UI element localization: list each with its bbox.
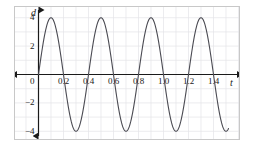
y-tick-label-minus-4: −4 xyxy=(25,127,35,136)
y-tick-label-2: 2 xyxy=(30,42,35,51)
sine-wave-plot xyxy=(0,0,254,148)
x-tick-label-0.2: 0.2 xyxy=(58,77,69,86)
y-tick-label-4: 4 xyxy=(30,13,35,22)
x-tick-label-1.0: 1.0 xyxy=(158,77,169,86)
x-tick-label-1.4: 1.4 xyxy=(208,77,219,86)
y-tick-label-minus-2: −2 xyxy=(25,98,35,107)
x-tick-label-0.8: 0.8 xyxy=(133,77,144,86)
tick-label-origin: 0 xyxy=(30,77,35,86)
x-tick-label-0.6: 0.6 xyxy=(108,77,119,86)
x-tick-label-0.4: 0.4 xyxy=(83,77,94,86)
x-axis-label: t xyxy=(230,78,233,88)
x-tick-label-1.2: 1.2 xyxy=(183,77,194,86)
graph-figure: d t 0 0.2 0.4 0.6 0.8 1.0 1.2 1.4 4 2 −2… xyxy=(0,0,254,148)
